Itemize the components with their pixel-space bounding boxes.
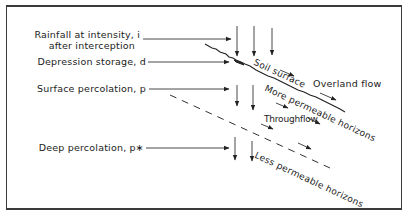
throughflow-arrow-1 xyxy=(276,103,288,108)
label-depression-storage: Depression storage, d xyxy=(38,57,146,67)
throughflow-arrow-2 xyxy=(261,124,273,129)
label-overland-flow: Overland flow xyxy=(313,79,382,89)
label-rainfall-sub: after interception xyxy=(49,41,135,51)
throughflow-arrow-4 xyxy=(298,143,311,149)
label-surface-percolation: Surface percolation, p xyxy=(37,84,146,94)
overland-arrow-2 xyxy=(320,93,336,100)
leader-lines xyxy=(143,39,231,148)
label-deep-percolation: Deep percolation, p∗ xyxy=(39,143,144,153)
label-throughflow: Throughflow xyxy=(264,115,318,124)
label-rainfall: Rainfall at intensity, i xyxy=(34,30,140,40)
